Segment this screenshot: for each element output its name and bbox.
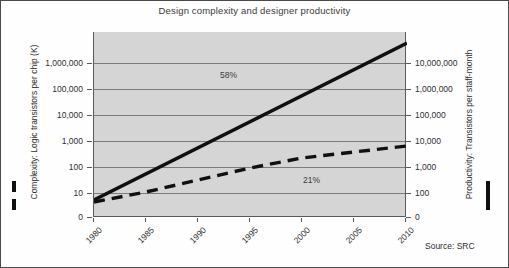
x-axis-tickmark <box>197 218 198 222</box>
y-axis-tickmark-right <box>406 217 411 218</box>
series-complexity-line <box>94 43 407 200</box>
x-axis-label: 1990 <box>173 225 208 260</box>
y-axis-tickmark-right <box>406 115 411 116</box>
source-note: Source: SRC <box>425 241 475 251</box>
x-axis-tickmark <box>301 218 302 222</box>
y-axis-label-right: 0 <box>415 212 485 222</box>
x-axis-tickmark <box>93 218 94 222</box>
y-axis-tickmark-left <box>87 115 92 116</box>
x-axis-tickmark <box>405 218 406 222</box>
x-axis-tickmark <box>353 218 354 222</box>
y-axis-tickmark-left <box>87 63 92 64</box>
y-axis-tickmark-right <box>406 167 411 168</box>
x-axis-label: 1980 <box>69 225 104 260</box>
x-axis-label: 2000 <box>277 225 312 260</box>
y-axis-label-left: 0 <box>21 212 83 222</box>
legend-marker-complexity-dashed-icon <box>10 179 18 213</box>
y-axis-tickmark-right <box>406 141 411 142</box>
y-axis-title-left: Complexity: Logic transistors per chip (… <box>29 50 40 200</box>
y-axis-tickmark-left <box>87 141 92 142</box>
chart-figure: Design complexity and designer productiv… <box>0 0 509 268</box>
y-axis-tickmark-left <box>87 167 92 168</box>
series-productivity-line <box>94 146 407 202</box>
y-axis-title-right: Productivity: Transistors per staff-mont… <box>464 50 475 200</box>
annotation-complexity-growth: 58% <box>220 70 237 80</box>
series-lines <box>94 32 407 217</box>
y-axis-tickmark-right <box>406 63 411 64</box>
legend-marker-productivity-solid-icon <box>484 179 492 213</box>
y-axis-title-right-wrap: Productivity: Transistors per staff-mont… <box>456 41 478 201</box>
x-axis-label: 1985 <box>121 225 156 260</box>
y-axis-title-left-wrap: Complexity: Logic transistors per chip (… <box>21 41 43 201</box>
y-axis-tickmark-right <box>406 89 411 90</box>
y-axis-tickmark-left <box>87 217 92 218</box>
annotation-productivity-growth: 21% <box>303 175 320 185</box>
x-axis-tickmark <box>145 218 146 222</box>
plot-area: 58% 21% <box>93 32 406 217</box>
x-axis-tickmark <box>249 218 250 222</box>
y-axis-tickmark-right <box>406 193 411 194</box>
y-axis-tickmark-left <box>87 193 92 194</box>
x-axis-label: 2010 <box>381 225 416 260</box>
chart-title: Design complexity and designer productiv… <box>1 5 508 16</box>
y-axis-tickmark-left <box>87 89 92 90</box>
x-axis-label: 1995 <box>225 225 260 260</box>
x-axis-label: 2005 <box>329 225 364 260</box>
